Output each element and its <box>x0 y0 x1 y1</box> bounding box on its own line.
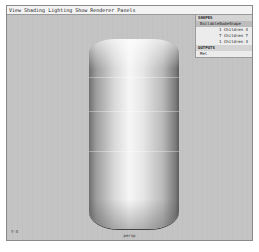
cylinder-edge-line <box>89 77 179 78</box>
channel-box-panel: SHAPES BoilableNodeShape 1 Children 4 7 … <box>195 15 252 58</box>
cylinder-edge-line <box>89 151 179 152</box>
output-item[interactable]: Mel <box>196 51 252 57</box>
menu-shading[interactable]: Shading <box>24 6 45 14</box>
viewport-menubar: View Shading Lighting Show Renderer Pane… <box>7 6 252 15</box>
cylinder-top-highlight <box>89 39 179 69</box>
menu-panels[interactable]: Panels <box>117 6 135 14</box>
menu-show[interactable]: Show <box>75 6 87 14</box>
menu-view[interactable]: View <box>9 6 21 14</box>
maya-viewport-window: View Shading Lighting Show Renderer Pane… <box>6 5 253 241</box>
cylinder-bottom-shade <box>89 199 179 229</box>
3d-viewport[interactable]: SHAPES BoilableNodeShape 1 Children 4 7 … <box>7 15 252 240</box>
cylinder-edge-line <box>89 111 179 112</box>
menu-renderer[interactable]: Renderer <box>90 6 114 14</box>
menu-lighting[interactable]: Lighting <box>48 6 72 14</box>
camera-label: persp <box>7 233 252 238</box>
cylinder-mesh[interactable] <box>89 39 179 229</box>
